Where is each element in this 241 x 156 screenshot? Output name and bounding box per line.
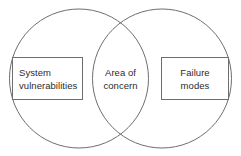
right-set-label-box: Failure modes (161, 57, 229, 100)
intersection-label-text: Area of concern (103, 66, 137, 92)
left-set-label-box: System vulnerabilities (12, 57, 83, 100)
venn-diagram: System vulnerabilities Area of concern F… (0, 0, 241, 156)
left-set-label-text: System vulnerabilities (19, 66, 77, 92)
right-set-label-text: Failure modes (180, 66, 209, 92)
intersection-label: Area of concern (92, 57, 149, 100)
